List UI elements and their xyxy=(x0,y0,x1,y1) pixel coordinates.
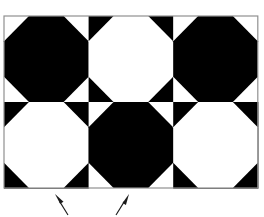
tile-r0-c2-octagon xyxy=(173,16,258,102)
tile-r1-c2-octagon xyxy=(173,102,258,188)
tile-r0-c1-octagon xyxy=(89,16,174,102)
tile-r1-c1 xyxy=(89,102,174,189)
tile-r1-c0-octagon xyxy=(4,102,89,188)
tile-r1-c2 xyxy=(173,102,258,189)
tile-r0-c0 xyxy=(4,16,89,103)
tile-r0-c2 xyxy=(173,16,258,103)
tile-r0-c1 xyxy=(89,16,174,103)
octagon-tiling-svg xyxy=(0,0,264,217)
tile-layer xyxy=(4,16,258,189)
figure-root xyxy=(0,0,264,217)
tile-r1-c1-octagon xyxy=(89,102,174,188)
tile-r1-c0 xyxy=(4,102,89,189)
tile-r0-c0-octagon xyxy=(4,16,89,102)
